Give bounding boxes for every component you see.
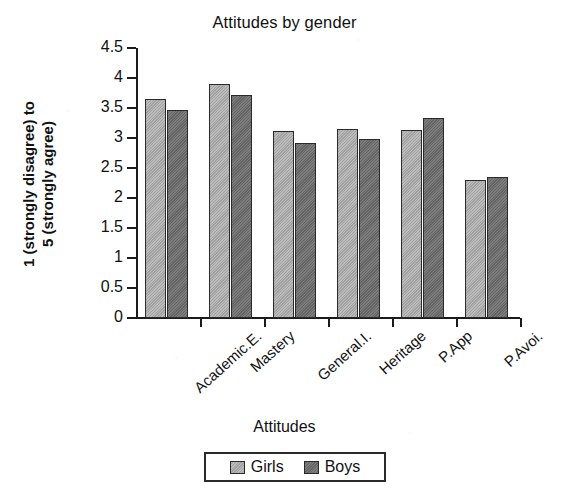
y-tick-label: 3.5 <box>101 98 123 116</box>
y-tick-mark <box>127 77 136 79</box>
y-tick-label: 1.5 <box>101 218 123 236</box>
bar-boys-0 <box>167 110 188 318</box>
bar-girls-5 <box>465 180 486 318</box>
y-tick-mark <box>127 137 136 139</box>
chart-title: Attitudes by gender <box>0 13 569 32</box>
x-tick-mark <box>328 318 330 327</box>
y-tick-label: 1 <box>114 248 123 266</box>
x-category-label: Heritage <box>376 327 430 378</box>
bar-boys-5 <box>487 177 508 318</box>
y-tick-mark <box>127 167 136 169</box>
x-category-label: P.App <box>435 327 475 366</box>
bar-girls-3 <box>337 129 358 318</box>
bar-boys-3 <box>359 139 380 318</box>
bar-boys-4 <box>423 118 444 318</box>
y-tick-mark <box>127 287 136 289</box>
y-tick-mark <box>127 197 136 199</box>
plot-area: 00.511.522.533.544.5 <box>136 48 520 318</box>
x-tick-mark <box>456 318 458 327</box>
y-tick-mark <box>127 227 136 229</box>
bar-girls-0 <box>145 99 166 318</box>
y-axis-line <box>136 48 138 319</box>
y-tick-mark <box>127 107 136 109</box>
bar-girls-2 <box>273 131 294 318</box>
chart-legend: GirlsBoys <box>204 452 386 482</box>
x-axis-title: Attitudes <box>0 418 569 436</box>
legend-item-boys[interactable]: Boys <box>304 458 361 476</box>
bar-chart: Attitudes by gender 1 (strongly disagree… <box>0 0 569 504</box>
y-tick-label: 3 <box>114 128 123 146</box>
y-tick-mark <box>127 257 136 259</box>
legend-swatch-icon <box>230 461 245 474</box>
y-tick-mark <box>127 47 136 49</box>
y-tick-label: 0 <box>114 308 123 326</box>
y-tick-mark <box>127 317 136 319</box>
x-category-label: General.I. <box>314 327 374 384</box>
y-axis-title-line-2: 5 (strongly agree) <box>39 121 56 247</box>
y-axis-title: 1 (strongly disagree) to 5 (strongly agr… <box>6 48 70 320</box>
bar-boys-1 <box>231 95 252 318</box>
y-axis-title-line-1: 1 (strongly disagree) to <box>20 101 37 267</box>
y-axis-title-text: 1 (strongly disagree) to 5 (strongly agr… <box>19 101 57 267</box>
bar-boys-2 <box>295 143 316 318</box>
legend-item-girls[interactable]: Girls <box>230 458 284 476</box>
bar-girls-1 <box>209 84 230 318</box>
x-category-label: P.Avoi. <box>501 327 546 370</box>
legend-label: Boys <box>325 458 361 476</box>
x-tick-mark <box>264 318 266 327</box>
y-tick-label: 2 <box>114 188 123 206</box>
x-tick-mark <box>520 318 522 327</box>
x-tick-mark <box>200 318 202 327</box>
y-tick-label: 2.5 <box>101 158 123 176</box>
x-tick-mark <box>392 318 394 327</box>
legend-swatch-icon <box>304 461 319 474</box>
y-tick-label: 0.5 <box>101 278 123 296</box>
y-tick-label: 4.5 <box>101 38 123 56</box>
bar-girls-4 <box>401 130 422 318</box>
y-tick-label: 4 <box>114 68 123 86</box>
legend-label: Girls <box>251 458 284 476</box>
